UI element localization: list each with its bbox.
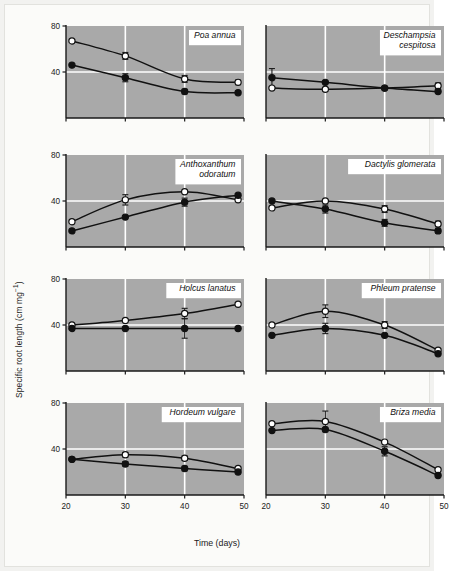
data-point-open bbox=[382, 439, 388, 445]
data-point-open bbox=[322, 198, 328, 204]
y-tick-label-80: 80 bbox=[51, 399, 61, 408]
panel-title-line: Deschampsia bbox=[383, 30, 435, 40]
data-point-filled bbox=[382, 220, 388, 226]
data-point-filled bbox=[382, 85, 388, 91]
data-point-open bbox=[69, 219, 75, 225]
data-point-filled bbox=[69, 228, 75, 234]
data-point-filled bbox=[122, 214, 128, 220]
x-tick-label-40: 40 bbox=[380, 502, 390, 511]
data-point-filled bbox=[269, 428, 275, 434]
y-tick-label-40: 40 bbox=[51, 197, 61, 206]
panel-briza-media: 20304050Briza media bbox=[240, 399, 450, 513]
data-point-open bbox=[269, 205, 275, 211]
data-point-open bbox=[435, 221, 441, 227]
panel-hordeum-vulgare: 408020304050Hordeum vulgare bbox=[40, 399, 250, 513]
y-axis-label-exponent: −1 bbox=[12, 284, 19, 292]
data-point-filled bbox=[435, 228, 441, 234]
data-point-filled bbox=[69, 456, 75, 462]
data-point-filled bbox=[435, 88, 441, 94]
data-point-filled bbox=[269, 198, 275, 204]
x-tick-label-30: 30 bbox=[121, 502, 131, 511]
panel-title-line: Holcus lanatus bbox=[179, 283, 236, 293]
y-axis-label-wrap: Specific root length (cm mg−1) bbox=[0, 170, 14, 400]
x-tick-label-20: 20 bbox=[61, 502, 71, 511]
x-tick-label-40: 40 bbox=[180, 502, 190, 511]
x-tick-label-20: 20 bbox=[261, 502, 271, 511]
y-tick-label-40: 40 bbox=[51, 445, 61, 454]
panel-title-line: Poa annua bbox=[194, 30, 236, 40]
data-point-filled bbox=[435, 472, 441, 478]
data-point-open bbox=[122, 197, 128, 203]
y-tick-label-40: 40 bbox=[51, 321, 61, 330]
y-tick-label-80: 80 bbox=[51, 151, 61, 160]
data-point-open bbox=[269, 85, 275, 91]
data-point-filled bbox=[322, 79, 328, 85]
y-tick-label-80: 80 bbox=[51, 275, 61, 284]
data-point-filled bbox=[182, 325, 188, 331]
data-point-filled bbox=[382, 448, 388, 454]
y-tick-label-80: 80 bbox=[51, 22, 61, 31]
data-point-open bbox=[182, 76, 188, 82]
panel-title-line: Anthoxanthum bbox=[179, 159, 235, 169]
data-point-filled bbox=[122, 75, 128, 81]
data-point-open bbox=[69, 38, 75, 44]
panel-title-line: Hordeum vulgare bbox=[170, 407, 236, 417]
data-point-filled bbox=[435, 351, 441, 357]
data-point-filled bbox=[122, 325, 128, 331]
data-point-filled bbox=[182, 88, 188, 94]
data-point-filled bbox=[182, 199, 188, 205]
data-point-filled bbox=[322, 426, 328, 432]
data-point-filled bbox=[182, 465, 188, 471]
panel-anthoxanthum-odoratum: 4080Anthoxanthumodoratum bbox=[40, 151, 250, 253]
data-point-filled bbox=[322, 325, 328, 331]
data-point-filled bbox=[322, 206, 328, 212]
data-point-open bbox=[122, 53, 128, 59]
x-tick-label-30: 30 bbox=[321, 502, 331, 511]
panel-title-line: Briza media bbox=[390, 407, 436, 417]
data-point-open bbox=[269, 322, 275, 328]
data-point-open bbox=[382, 206, 388, 212]
data-point-filled bbox=[382, 332, 388, 338]
y-axis-label-text: Specific root length (cm mg bbox=[14, 292, 24, 398]
panel-title-line: Dactylis glomerata bbox=[365, 159, 436, 169]
data-point-open bbox=[182, 455, 188, 461]
x-axis-label: Time (days) bbox=[0, 538, 434, 548]
panel-poa-annua: 4080Poa annua bbox=[40, 22, 250, 124]
data-point-filled bbox=[69, 325, 75, 331]
data-point-open bbox=[122, 317, 128, 323]
data-point-open bbox=[382, 322, 388, 328]
data-point-open bbox=[122, 452, 128, 458]
data-point-open bbox=[269, 421, 275, 427]
panel-dactylis-glomerata: Dactylis glomerata bbox=[240, 151, 450, 253]
panel-title-line: odoratum bbox=[199, 169, 235, 179]
data-point-filled bbox=[269, 75, 275, 81]
data-point-filled bbox=[122, 461, 128, 467]
panel-grid: 4080Poa annuaDeschampsiacespitosa4080Ant… bbox=[40, 22, 422, 512]
data-point-open bbox=[322, 308, 328, 314]
data-point-open bbox=[182, 189, 188, 195]
data-point-open bbox=[322, 418, 328, 424]
y-axis-label: Specific root length (cm mg−1) bbox=[12, 281, 24, 398]
panel-holcus-lanatus: 4080Holcus lanatus bbox=[40, 275, 250, 377]
panel-title-line: Phleum pratense bbox=[371, 283, 436, 293]
y-tick-label-40: 40 bbox=[51, 68, 61, 77]
panel-phleum-pratense: Phleum pratense bbox=[240, 275, 450, 377]
data-point-open bbox=[182, 310, 188, 316]
panel-deschampsia-cespitosa: Deschampsiacespitosa bbox=[240, 22, 450, 124]
data-point-filled bbox=[69, 62, 75, 68]
x-tick-label-50: 50 bbox=[439, 502, 449, 511]
data-point-open bbox=[322, 86, 328, 92]
data-point-filled bbox=[269, 332, 275, 338]
y-axis-label-close: ) bbox=[14, 281, 24, 284]
panel-title-line: cespitosa bbox=[399, 40, 436, 50]
